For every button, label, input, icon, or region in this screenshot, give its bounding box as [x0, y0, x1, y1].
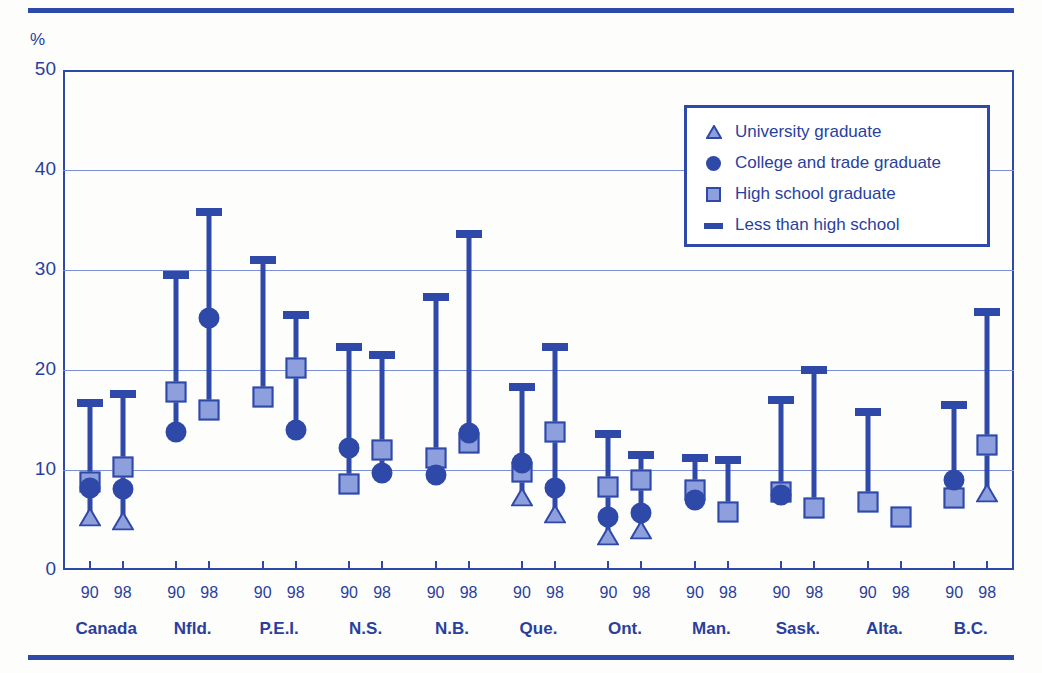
gridline: [63, 270, 1014, 271]
marker-connector-line: [87, 403, 92, 517]
marker-less-than-high-school: [768, 396, 794, 404]
marker-high-school-graduate: [631, 470, 652, 491]
x-axis-group-label: P.E.I.: [259, 619, 298, 639]
x-axis-group-label: N.S.: [349, 619, 382, 639]
x-axis-tick: [521, 561, 523, 570]
legend-item-label: High school graduate: [735, 184, 896, 204]
marker-high-school-graduate: [285, 358, 306, 379]
marker-high-school-graduate: [977, 435, 998, 456]
x-axis-tick: [554, 561, 556, 570]
x-axis-tick: [89, 561, 91, 570]
x-axis-tick: [694, 561, 696, 570]
marker-high-school-graduate: [339, 474, 360, 495]
marker-college-and-trade-graduate: [944, 470, 965, 491]
marker-less-than-high-school: [336, 343, 362, 351]
marker-university-graduate: [976, 484, 998, 503]
marker-college-and-trade-graduate: [372, 463, 393, 484]
marker-less-than-high-school: [423, 293, 449, 301]
dash-icon: [701, 210, 735, 240]
x-axis-year-label: 98: [373, 584, 391, 602]
x-axis-tick: [468, 561, 470, 570]
marker-college-and-trade-graduate: [512, 453, 533, 474]
marker-less-than-high-school: [250, 256, 276, 264]
x-axis-year-label: 98: [287, 584, 305, 602]
marker-connector-line: [174, 275, 179, 432]
marker-connector-line: [865, 412, 870, 502]
x-axis-tick: [122, 561, 124, 570]
x-axis-tick: [953, 561, 955, 570]
x-axis-year-label: 98: [719, 584, 737, 602]
marker-connector-line: [985, 312, 990, 493]
gridline: [63, 470, 1014, 471]
marker-less-than-high-school: [801, 366, 827, 374]
legend-item: University graduate: [701, 117, 881, 147]
x-axis-year-label: 90: [686, 584, 704, 602]
marker-high-school-graduate: [252, 387, 273, 408]
marker-high-school-graduate: [717, 502, 738, 523]
legend-item: Less than high school: [701, 210, 899, 240]
y-axis-tick-label: 50: [12, 59, 56, 78]
y-axis-ticks: 01020304050: [8, 70, 56, 570]
marker-college-and-trade-graduate: [458, 423, 479, 444]
marker-less-than-high-school: [682, 454, 708, 462]
marker-high-school-graduate: [372, 440, 393, 461]
marker-less-than-high-school: [715, 456, 741, 464]
marker-less-than-high-school: [974, 308, 1000, 316]
marker-high-school-graduate: [804, 498, 825, 519]
marker-less-than-high-school: [163, 271, 189, 279]
x-axis-group-label: Man.: [692, 619, 731, 639]
x-axis-tick: [381, 561, 383, 570]
x-axis-year-label: 98: [200, 584, 218, 602]
marker-high-school-graduate: [166, 382, 187, 403]
x-axis-tick: [175, 561, 177, 570]
x-axis-tick: [262, 561, 264, 570]
y-axis-tick-label: 40: [12, 159, 56, 178]
triangle-glyph: [706, 125, 722, 139]
marker-connector-line: [466, 234, 471, 443]
x-axis-tick: [607, 561, 609, 570]
x-axis-year-label: 90: [513, 584, 531, 602]
marker-college-and-trade-graduate: [771, 485, 792, 506]
x-axis-year-label: 90: [945, 584, 963, 602]
y-axis-tick-label: 0: [12, 559, 56, 578]
x-axis-tick: [295, 561, 297, 570]
x-axis-group-label: Sask.: [776, 619, 820, 639]
marker-connector-line: [260, 260, 265, 397]
x-axis-tick: [813, 561, 815, 570]
x-axis-group-label: Canada: [76, 619, 137, 639]
marker-university-graduate: [544, 505, 566, 524]
legend-item-label: College and trade graduate: [735, 153, 941, 173]
top-rule: [28, 8, 1014, 13]
marker-college-and-trade-graduate: [598, 507, 619, 528]
x-axis-group-label: B.C.: [954, 619, 988, 639]
y-axis-tick-label: 10: [12, 459, 56, 478]
marker-university-graduate: [112, 512, 134, 531]
marker-college-and-trade-graduate: [199, 308, 220, 329]
marker-high-school-graduate: [598, 477, 619, 498]
x-axis-group-label: Alta.: [866, 619, 903, 639]
circle-glyph: [706, 156, 721, 171]
circle-icon: [701, 148, 735, 178]
x-axis-tick: [986, 561, 988, 570]
marker-high-school-graduate: [112, 457, 133, 478]
marker-less-than-high-school: [509, 383, 535, 391]
x-axis-group-label: Nfld.: [174, 619, 212, 639]
x-axis-year-label: 90: [254, 584, 272, 602]
marker-less-than-high-school: [941, 401, 967, 409]
marker-college-and-trade-graduate: [166, 422, 187, 443]
marker-university-graduate: [630, 521, 652, 540]
x-axis-year-label: 98: [978, 584, 996, 602]
x-axis-group-label: Ont.: [608, 619, 642, 639]
y-axis-tick-label: 30: [12, 259, 56, 278]
legend-item: High school graduate: [701, 179, 896, 209]
marker-less-than-high-school: [283, 311, 309, 319]
marker-connector-line: [347, 347, 352, 484]
x-axis-tick: [867, 561, 869, 570]
marker-college-and-trade-graduate: [79, 478, 100, 499]
legend-item: College and trade graduate: [701, 148, 941, 178]
chart-legend: University graduateCollege and trade gra…: [684, 105, 990, 247]
marker-less-than-high-school: [628, 451, 654, 459]
marker-college-and-trade-graduate: [112, 479, 133, 500]
marker-university-graduate: [597, 527, 619, 546]
x-axis-tick: [900, 561, 902, 570]
